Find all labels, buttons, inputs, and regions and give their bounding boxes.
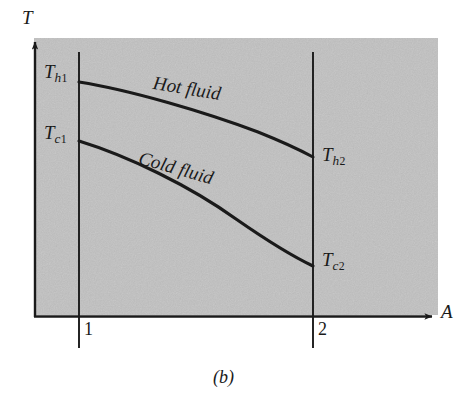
x-tick-label-1: 1 [84,320,93,338]
hot-outlet-subscript: h [333,153,340,168]
figure-caption: (b) [213,368,234,386]
cold-inlet-temperature-label: Tc1 [44,123,66,142]
hot-inlet-station: 1 [62,72,68,85]
x-axis-label: A [441,302,453,321]
hot-outlet-station: 2 [340,155,346,168]
hot-outlet-temperature-label: Th2 [322,145,345,164]
plot-panel [34,38,438,315]
cold-outlet-symbol: T [322,249,333,270]
heat-exchanger-temperature-diagram: T A Th1 Tc1 Th2 Tc2 Hot fluid Cold fluid… [0,0,469,404]
y-axis-label: T [22,8,33,27]
cold-inlet-subscript: c [55,131,61,146]
diagram-canvas [0,0,469,404]
cold-outlet-temperature-label: Tc2 [322,250,344,269]
cold-outlet-station: 2 [339,260,345,273]
hot-outlet-symbol: T [322,144,333,165]
cold-outlet-subscript: c [333,258,339,273]
hot-inlet-subscript: h [55,70,62,85]
hot-inlet-temperature-label: Th1 [44,62,67,81]
x-tick-label-2: 2 [318,320,327,338]
hot-inlet-symbol: T [44,61,55,82]
cold-inlet-symbol: T [44,122,55,143]
cold-inlet-station: 1 [61,133,67,146]
